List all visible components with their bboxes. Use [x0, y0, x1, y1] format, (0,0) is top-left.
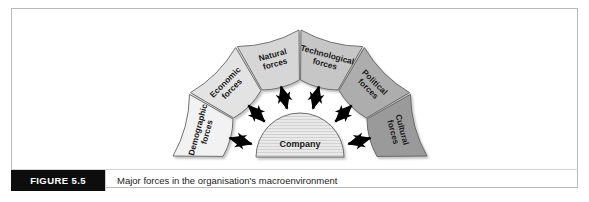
macroenvironment-diagram: DemographicforcesEconomicforcesNaturalfo…: [11, 8, 578, 163]
bidirectional-arrow: [335, 105, 351, 121]
bidirectional-arrow: [248, 105, 264, 121]
figure-caption-strip: FIGURE 5.5 Major forces in the organisat…: [11, 170, 578, 191]
center-company-node: Company: [256, 113, 344, 157]
company-label: Company: [279, 139, 320, 149]
figure-root: DemographicforcesEconomicforcesNaturalfo…: [0, 0, 589, 202]
bidirectional-arrow: [348, 138, 370, 144]
bidirectional-arrow: [229, 138, 251, 144]
figure-number-tag: FIGURE 5.5: [11, 170, 105, 191]
bidirectional-arrow: [281, 86, 287, 108]
bidirectional-arrow: [313, 86, 319, 108]
diagram-canvas: DemographicforcesEconomicforcesNaturalfo…: [11, 8, 578, 163]
company-semicircle: [256, 113, 344, 157]
figure-caption-text: Major forces in the organisation's macro…: [106, 170, 578, 191]
